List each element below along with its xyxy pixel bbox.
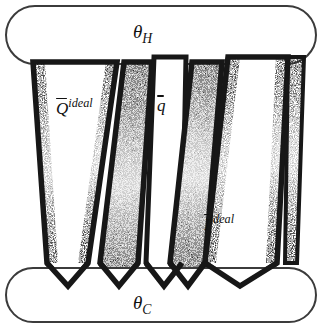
overbar-mark <box>56 98 66 99</box>
symbol-Q: Q <box>56 99 68 118</box>
theta-subscript-cold: C <box>142 302 151 317</box>
symbol-I: I <box>204 215 210 234</box>
cold-reservoir-outline <box>6 268 316 322</box>
thermodynamic-flow-figure: θH θC Qideal q Iideal <box>0 0 322 328</box>
overbar-mark <box>157 95 164 96</box>
figure-canvas <box>0 0 322 328</box>
overbar-wrapper-Q: Q <box>56 100 68 117</box>
cold-reservoir-label: θC <box>133 293 151 316</box>
theta-symbol-hot: θ <box>133 21 142 42</box>
overbar-wrapper-q: q <box>157 97 166 114</box>
theta-subscript-hot: H <box>142 31 152 46</box>
superscript-ideal-Q: ideal <box>68 96 92 110</box>
heat-small-label: q <box>157 97 166 114</box>
arrow-right-outer-texture <box>285 57 304 263</box>
superscript-ideal-I: ideal <box>210 212 234 226</box>
theta-symbol-cold: θ <box>133 292 142 313</box>
heat-ideal-label: Qideal <box>56 97 93 117</box>
symbol-q: q <box>157 96 166 115</box>
current-ideal-label: Iideal <box>204 213 234 233</box>
overbar-wrapper-I: I <box>204 216 210 233</box>
cold-reservoir <box>6 268 316 322</box>
hot-reservoir-label: θH <box>133 22 152 45</box>
overbar-mark <box>204 214 209 215</box>
